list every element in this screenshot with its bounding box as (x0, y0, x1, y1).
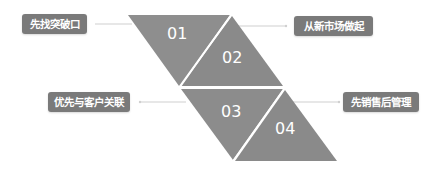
connector-04-dot (338, 101, 340, 103)
step-number-01: 01 (167, 24, 187, 43)
connector-03-dot (139, 101, 141, 103)
connector-02-dot (285, 25, 287, 27)
step-number-02: 02 (222, 48, 242, 67)
strategy-diagram: 01 02 03 04 先找突破口 从新市场做起 优先与客户关联 先销售后管理 (0, 0, 439, 176)
step-label-01: 先找突破口 (22, 14, 87, 34)
step-number-04: 04 (275, 119, 295, 138)
step-number-03: 03 (221, 102, 241, 121)
step-label-04: 先销售后管理 (343, 92, 419, 112)
step-label-03: 优先与客户关联 (48, 92, 130, 112)
step-label-02: 从新市场做起 (294, 16, 373, 36)
